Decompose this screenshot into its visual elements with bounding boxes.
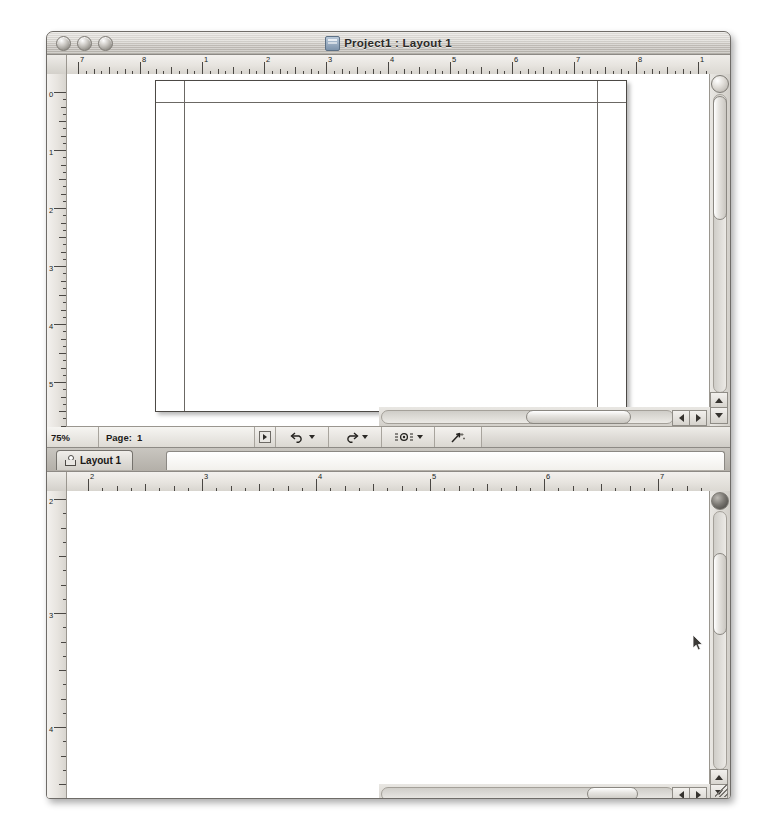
title-container: Project1 : Layout 1: [47, 32, 730, 54]
tab-layout-1-top[interactable]: Layout 1: [56, 450, 133, 470]
scroll-right-button-top[interactable]: [689, 410, 707, 426]
vscroll-track-bottom: [713, 511, 727, 770]
page-forward-button-top[interactable]: [255, 427, 276, 447]
margin-guide-top-top: [156, 102, 626, 103]
page-label-top: Page:: [106, 432, 132, 443]
hscroll-thumb-top[interactable]: [526, 410, 631, 424]
quick-action-button-top[interactable]: [435, 427, 482, 447]
scroll-right-button-bottom[interactable]: [689, 787, 707, 799]
mouse-cursor: [692, 634, 704, 652]
undo-button-top[interactable]: [276, 427, 329, 447]
layout-icon: [65, 455, 75, 466]
close-button[interactable]: [56, 36, 71, 51]
chevron-down-icon: [362, 435, 368, 439]
zoom-button[interactable]: [98, 36, 113, 51]
layout-pane-top: 78123456781 012345: [47, 55, 730, 447]
status-bar-filler-top: [482, 427, 730, 447]
eye-icon: [394, 431, 414, 443]
minimize-button[interactable]: [77, 36, 92, 51]
triangle-right-icon: [696, 414, 701, 422]
tab-strip-top: Layout 1: [47, 447, 730, 471]
margin-guide-right-top: [597, 81, 598, 411]
margin-guide-left-top: [184, 81, 185, 411]
tab-empty-slot-top[interactable]: [166, 451, 725, 470]
application-window: Project1 : Layout 1 78123456781 012345: [46, 31, 731, 799]
vscroll-thumb-bottom[interactable]: [713, 553, 727, 635]
redo-arrow-icon: [343, 431, 359, 443]
vertical-ruler-bottom[interactable]: 234: [47, 491, 67, 799]
hscroll-thumb-bottom[interactable]: [587, 787, 638, 799]
horizontal-ruler-row-bottom: 234567: [47, 472, 730, 492]
undo-arrow-icon: [290, 431, 306, 443]
vertical-ruler-top[interactable]: 012345: [47, 74, 67, 427]
triangle-left-icon: [679, 414, 684, 422]
triangle-up-icon: [715, 398, 723, 403]
layout-canvas-bottom[interactable]: [66, 491, 710, 799]
vertical-scrollbar-bottom[interactable]: [709, 491, 730, 799]
document-page-top[interactable]: [155, 80, 627, 412]
vertical-scrollbar-top[interactable]: [709, 74, 730, 427]
chevron-down-icon: [417, 435, 423, 439]
horizontal-ruler-top[interactable]: 78123456781: [66, 55, 710, 74]
tab-label-top: Layout 1: [80, 455, 121, 466]
page-number-top: 1: [137, 432, 142, 443]
scroll-down-button-top[interactable]: [710, 407, 728, 424]
ruler-origin-corner-top[interactable]: [47, 55, 67, 74]
page-indicator-top[interactable]: Page: 1: [99, 427, 255, 447]
preview-button-top[interactable]: [382, 427, 435, 447]
layout-canvas-top[interactable]: [66, 74, 710, 427]
triangle-right-icon: [259, 431, 271, 443]
triangle-right-icon: [696, 791, 701, 799]
window-title: Project1 : Layout 1: [344, 37, 452, 49]
horizontal-scrollbar-bottom[interactable]: [379, 784, 710, 799]
split-knob-bottom[interactable]: [711, 492, 729, 510]
split-knob-top[interactable]: [711, 75, 729, 93]
status-bar-top: 75% Page: 1: [47, 426, 730, 447]
resize-grip[interactable]: [715, 784, 728, 797]
window-controls: [56, 36, 113, 51]
scroll-left-button-bottom[interactable]: [672, 787, 690, 799]
document-icon: [325, 36, 340, 51]
triangle-down-icon: [715, 413, 723, 418]
layout-pane-bottom: 234567 234: [47, 472, 730, 799]
horizontal-scrollbar-top[interactable]: [379, 407, 710, 427]
horizontal-ruler-row-top: 78123456781: [47, 55, 730, 75]
scroll-left-button-top[interactable]: [672, 410, 690, 426]
zoom-level-display-top[interactable]: 75%: [47, 427, 99, 447]
split-pane-container: 78123456781 012345: [47, 55, 730, 799]
triangle-left-icon: [679, 791, 684, 799]
title-bar[interactable]: Project1 : Layout 1: [47, 32, 730, 55]
vscroll-thumb-top[interactable]: [713, 96, 727, 220]
triangle-up-icon: [715, 775, 723, 780]
ruler-origin-corner-bottom[interactable]: [47, 472, 67, 491]
screenshot-root: Project1 : Layout 1 78123456781 012345: [0, 0, 761, 839]
sparkle-arrow-icon: [449, 431, 467, 444]
horizontal-ruler-bottom[interactable]: 234567: [66, 472, 710, 491]
redo-button-top[interactable]: [329, 427, 382, 447]
chevron-down-icon: [309, 435, 315, 439]
